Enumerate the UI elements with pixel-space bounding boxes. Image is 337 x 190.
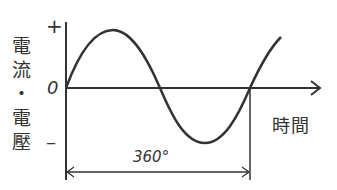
y-label-char: 壓 bbox=[10, 130, 32, 154]
x-axis-label: 時間 bbox=[272, 111, 310, 137]
y-label-char: 電 bbox=[10, 106, 32, 130]
y-tick-negative: – bbox=[46, 130, 56, 154]
period-label: 360° bbox=[133, 148, 169, 166]
y-tick-zero: 0 bbox=[47, 77, 58, 98]
sine-curve bbox=[66, 30, 281, 143]
y-tick-positive: + bbox=[46, 14, 63, 38]
y-label-char: ・ bbox=[10, 82, 32, 106]
y-label-char: 流 bbox=[10, 58, 32, 82]
y-label-char: 電 bbox=[10, 34, 32, 58]
y-axis-label: 電 流 ・ 電 壓 bbox=[10, 34, 32, 154]
